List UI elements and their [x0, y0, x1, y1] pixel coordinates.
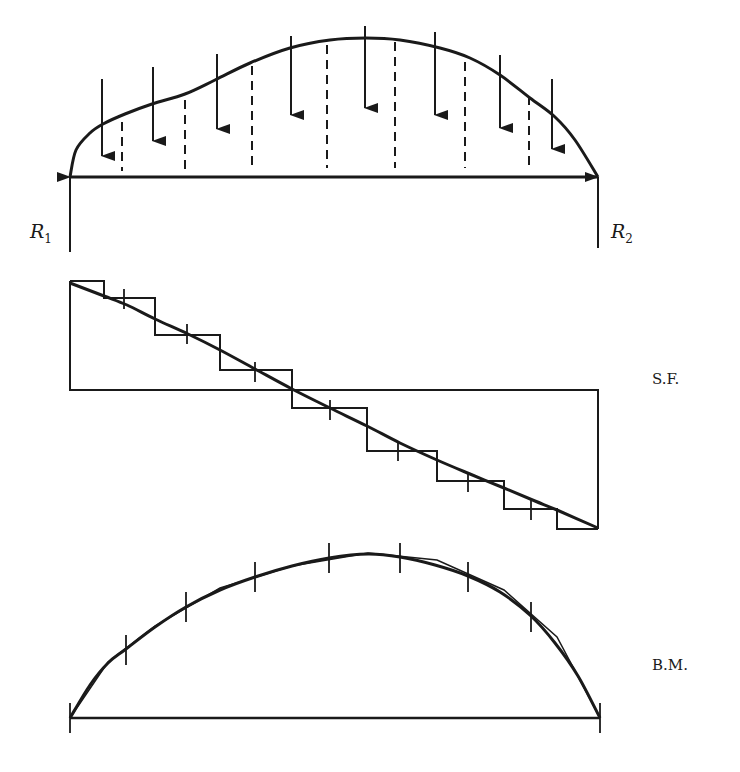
- sf-outline: [70, 281, 598, 529]
- bm-curve: [70, 554, 600, 718]
- load-division-lines: [122, 42, 529, 171]
- reactions: R1R2: [29, 177, 633, 252]
- beam-diagram: R1R2 S.F. B.M.: [0, 0, 740, 772]
- bm-label: B.M.: [652, 656, 688, 674]
- bending-moment-diagram: B.M.: [70, 543, 688, 733]
- shear-force-diagram: S.F.: [70, 281, 679, 529]
- bm-polygon: [70, 553, 600, 718]
- load-distribution-curve: [70, 38, 598, 177]
- sf-tick-marks: [124, 289, 531, 520]
- sf-curve: [70, 283, 598, 528]
- sf-label: S.F.: [652, 370, 679, 388]
- reaction-label: R1: [29, 220, 52, 246]
- reaction-r2: R2: [598, 177, 633, 248]
- sf-stepped-line: [70, 281, 598, 529]
- loaded-beam: R1R2: [29, 26, 633, 252]
- reaction-label: R2: [610, 220, 633, 246]
- reaction-r1: R1: [29, 177, 70, 252]
- bm-tick-marks: [70, 543, 600, 733]
